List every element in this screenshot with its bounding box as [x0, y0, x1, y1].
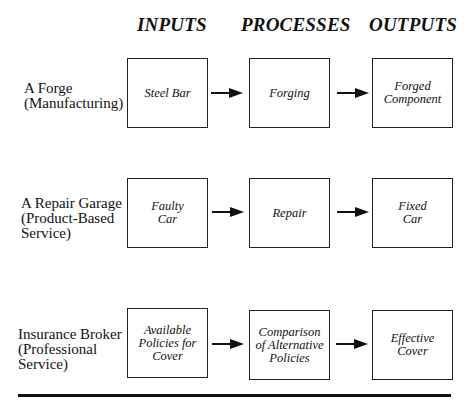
process-box-forge: Forging: [249, 58, 330, 128]
row-label-insurance-broker: Insurance Broker (Professional Service): [18, 327, 122, 372]
output-text: Forged Component: [384, 80, 442, 106]
input-box-insurance-broker: Available Policies for Cover: [127, 308, 208, 378]
input-box-repair-garage: Faulty Car: [127, 178, 208, 248]
row-label-repair-garage: A Repair Garage (Product-Based Service): [21, 196, 122, 241]
input-text: Faulty Car: [151, 200, 184, 226]
process-text: Repair: [272, 207, 306, 220]
output-text: Fixed Car: [398, 200, 426, 226]
input-box-forge: Steel Bar: [127, 58, 208, 128]
output-box-insurance-broker: Effective Cover: [372, 310, 453, 380]
arrow-icon: [212, 339, 244, 349]
arrow-icon: [336, 339, 368, 349]
row-label-forge: A Forge (Manufacturing): [24, 81, 123, 111]
process-text: Forging: [269, 87, 310, 100]
arrow-icon: [337, 207, 369, 217]
header-processes: PROCESSES: [241, 14, 351, 36]
header-inputs: INPUTS: [137, 14, 207, 36]
arrow-icon: [212, 207, 244, 217]
output-text: Effective Cover: [391, 332, 435, 358]
process-text: Comparison of Alternative Policies: [255, 326, 323, 365]
process-box-insurance-broker: Comparison of Alternative Policies: [249, 310, 330, 380]
header-outputs: OUTPUTS: [369, 14, 457, 36]
output-box-repair-garage: Fixed Car: [372, 178, 453, 248]
input-text: Steel Bar: [144, 87, 190, 100]
input-text: Available Policies for Cover: [139, 324, 197, 363]
process-box-repair-garage: Repair: [249, 178, 330, 248]
output-box-forge: Forged Component: [372, 58, 453, 128]
bottom-divider: [18, 394, 451, 397]
arrow-icon: [211, 88, 243, 98]
arrow-icon: [337, 88, 369, 98]
